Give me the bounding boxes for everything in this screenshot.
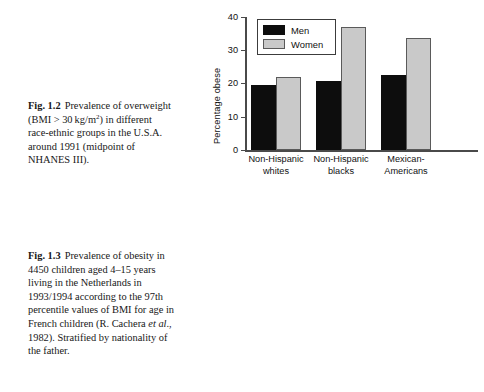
y-tick-label-0-chart1: 0 [217, 145, 238, 155]
legend-item-women: Women [263, 37, 329, 51]
caption-line-7: 1982). Stratified by nationality of [28, 332, 167, 343]
bar-women-mexican-americans [406, 38, 431, 150]
y-axis-line-chart1 [245, 17, 247, 151]
bar-women-non-hispanic-blacks [341, 27, 366, 150]
caption-line-2: 4450 children aged 4–15 years [28, 264, 156, 275]
y-tick-0-chart1 [241, 150, 245, 151]
caption-text-fig-1-2: Fig. 1.2Prevalence of overweight (BMI > … [28, 99, 200, 167]
caption-line-3: living in the Netherlands in [28, 277, 142, 288]
legend-chart1: Men Women [257, 19, 336, 55]
chart-fig-1-2: Percentage obese 0 10 20 30 40 Non-Hispa… [200, 8, 480, 190]
caption-line-4: around 1991 (midpoint of [28, 141, 135, 152]
legend-item-men: Men [263, 23, 329, 37]
caption-line-1: Prevalence of overweight [65, 100, 171, 111]
x-axis-line-chart1 [245, 150, 478, 152]
legend-swatch-women-icon [263, 39, 285, 49]
x-category-line-2: Americans [384, 166, 427, 176]
caption-line-1: Prevalence of obesity in [65, 250, 165, 261]
y-tick-label-30-chart1: 30 [217, 45, 238, 55]
caption-line-3: race-ethnic groups in the U.S.A. [28, 127, 162, 138]
legend-label-women: Women [291, 39, 323, 50]
x-category-line-2: whites [263, 166, 289, 176]
bar-men-mexican-americans [381, 75, 406, 150]
x-category-label-mexican-americans: Mexican- Americans [366, 154, 446, 177]
figure-label: Fig. 1.2 [28, 100, 61, 111]
caption-line-5: NHANES III). [28, 154, 89, 165]
x-category-line-1: Non-Hispanic [313, 154, 368, 164]
x-category-line-2: blacks [328, 166, 354, 176]
figure-1-2-caption: Fig. 1.2Prevalence of overweight (BMI > … [28, 99, 200, 167]
caption-text-fig-1-3: Fig. 1.3Prevalence of obesity in 4450 ch… [28, 249, 214, 358]
figure-label: Fig. 1.3 [28, 250, 61, 261]
y-tick-30-chart1 [241, 50, 245, 51]
caption-line-5: percentile values of BMI for age in [28, 304, 174, 315]
y-tick-label-20-chart1: 20 [217, 78, 238, 88]
figure-1-3-caption: Fig. 1.3Prevalence of obesity in 4450 ch… [28, 249, 214, 358]
caption-line-4: 1993/1994 according to the 97th [28, 291, 163, 302]
legend-swatch-men-icon [263, 25, 285, 35]
bar-men-non-hispanic-whites [251, 85, 276, 150]
legend-label-men: Men [291, 25, 309, 36]
x-category-line-1: Non-Hispanic [248, 154, 303, 164]
x-category-line-1: Mexican- [387, 154, 424, 164]
y-tick-label-10-chart1: 10 [217, 112, 238, 122]
bar-men-non-hispanic-blacks [316, 81, 341, 150]
caption-line-8: the father. [28, 345, 70, 356]
bar-women-non-hispanic-whites [276, 77, 301, 150]
y-tick-40-chart1 [241, 17, 245, 18]
y-tick-10-chart1 [241, 117, 245, 118]
y-tick-label-40-chart1: 40 [217, 12, 238, 22]
y-tick-20-chart1 [241, 83, 245, 84]
